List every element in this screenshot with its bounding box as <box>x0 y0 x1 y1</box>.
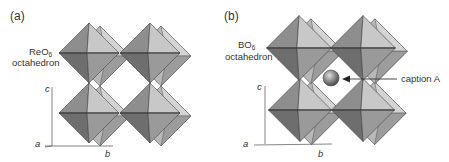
a-site-cation-sphere <box>323 70 339 86</box>
panel-b-octahedron-label: BO6 <box>238 39 256 51</box>
panel-a-octahedron-label-line2: octahedron <box>12 57 60 68</box>
octahedron <box>331 16 408 84</box>
axis-b-label: b <box>105 148 110 159</box>
perovskite-figure: (a) ReO6 octahedron c a b (b) BO6 octahe… <box>0 0 449 162</box>
panel-a: (a) ReO6 octahedron c a b <box>10 9 191 159</box>
octahedron <box>332 79 407 145</box>
axis-c-label: c <box>45 83 50 94</box>
axis-a-label: a <box>35 138 40 149</box>
axis-b-label: b <box>318 148 323 159</box>
octahedron <box>120 83 191 146</box>
panel-b-octahedron-label-line2: octahedron <box>225 51 273 62</box>
octahedron <box>269 79 344 145</box>
axis-c-label: c <box>257 81 262 92</box>
octahedron <box>120 23 191 86</box>
octahedron <box>59 23 130 86</box>
octahedron <box>59 83 130 146</box>
panel-b-label: (b) <box>224 9 239 23</box>
panel-a-label: (a) <box>10 9 25 23</box>
panel-a-octahedra <box>59 23 191 146</box>
a-site-caption: caption A <box>401 73 441 84</box>
panel-b: (b) BO6 octahedron caption A c a b <box>224 9 441 159</box>
axis-a-label: a <box>243 138 248 149</box>
